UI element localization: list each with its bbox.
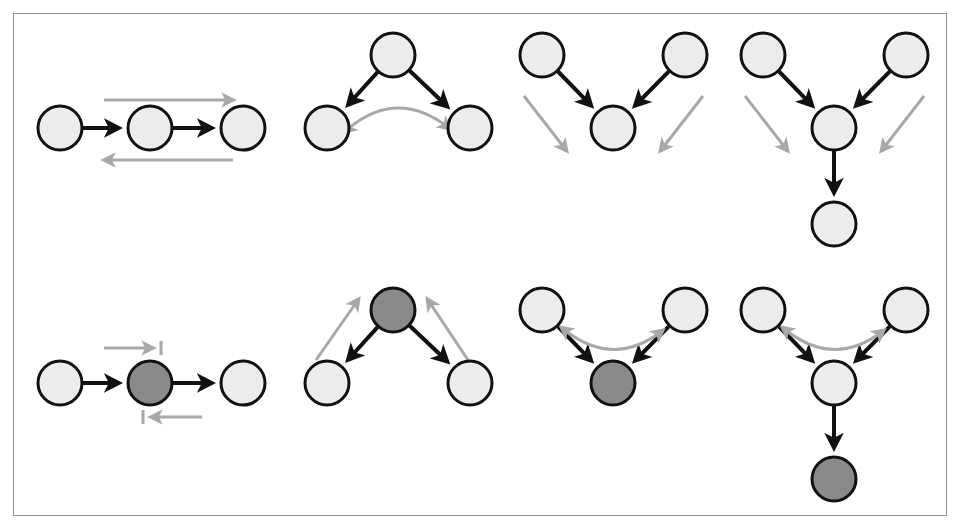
- panel-collider-opened: [508, 281, 714, 411]
- figure-root: [0, 0, 962, 531]
- panel-collider-with-conditioned-descendant-opened: [729, 281, 935, 507]
- panel-collider-with-descendant-closed: [729, 26, 935, 252]
- panel-chain-blocked: [28, 341, 278, 433]
- panel-collider-closed: [508, 26, 714, 156]
- panel-fork-blocked: [295, 281, 503, 411]
- panel-fork-open: [295, 26, 503, 156]
- panel-chain-open: [28, 86, 278, 178]
